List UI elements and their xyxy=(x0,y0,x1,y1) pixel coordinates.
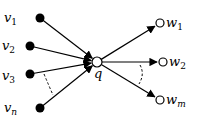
ellipsis-arc-out xyxy=(139,65,142,84)
label-v3: v3 xyxy=(2,68,15,85)
node-v2 xyxy=(26,42,35,51)
node-v3 xyxy=(26,70,35,79)
label-w1: w1 xyxy=(166,15,183,32)
edge-q-w1 xyxy=(101,26,155,59)
graph-diagram: v1v2v3vnw1w2wmq xyxy=(0,0,200,124)
node-wm xyxy=(156,96,164,104)
edge-q-wm xyxy=(101,65,155,97)
label-wm: wm xyxy=(166,92,186,109)
node-v1 xyxy=(36,14,45,23)
node-w1 xyxy=(156,19,164,27)
label-v1: v1 xyxy=(4,10,17,27)
label-v2: v2 xyxy=(2,38,15,55)
edge-vn-q xyxy=(40,66,92,108)
edge-v2-q xyxy=(30,46,91,61)
ellipsis-arc-in xyxy=(44,74,53,95)
nodes xyxy=(26,14,168,113)
node-vn xyxy=(36,104,45,113)
label-q: q xyxy=(94,66,102,81)
node-w2 xyxy=(159,58,167,66)
label-w2: w2 xyxy=(169,54,186,71)
edge-v1-q xyxy=(40,18,92,58)
edge-v3-q xyxy=(30,63,91,74)
label-vn: vn xyxy=(4,100,17,117)
